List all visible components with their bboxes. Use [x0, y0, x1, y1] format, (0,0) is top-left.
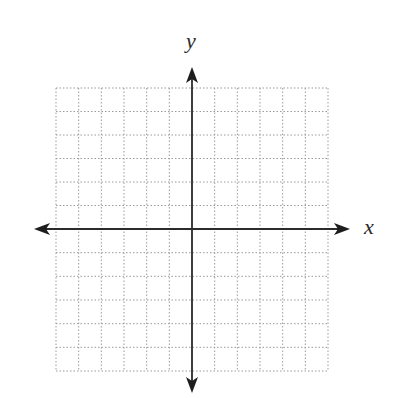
- y-axis: [186, 67, 198, 393]
- y-axis-label: y: [186, 30, 196, 52]
- coordinate-plane: [0, 0, 399, 398]
- x-axis-label: x: [364, 216, 374, 238]
